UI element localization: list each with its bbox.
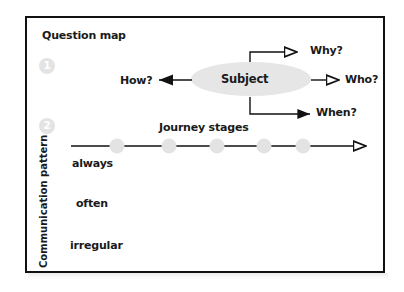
stage-dot [296, 139, 311, 154]
subject-label: Subject [221, 72, 268, 86]
why-arrow [250, 52, 297, 62]
diagram-connectors [0, 0, 404, 292]
step-number-badge: 2 [39, 118, 55, 134]
row-label-often: often [76, 197, 108, 210]
branch-label-when: When? [316, 106, 357, 119]
section-title: Question map [42, 29, 126, 42]
when-arrow [250, 97, 310, 114]
branch-label-how: How? [120, 74, 153, 87]
communication-pattern-axis-label: Communication pattern [38, 135, 49, 268]
branch-label-who: Who? [345, 73, 378, 86]
branch-label-why: Why? [310, 44, 343, 57]
journey-stages-label: Journey stages [159, 121, 249, 134]
row-label-always: always [72, 157, 113, 170]
row-label-irregular: irregular [70, 239, 123, 252]
stage-dot [110, 139, 125, 154]
step-number-badge: 1 [39, 58, 55, 74]
stage-dot [257, 139, 272, 154]
stage-dot [162, 139, 177, 154]
stage-dot [210, 139, 225, 154]
